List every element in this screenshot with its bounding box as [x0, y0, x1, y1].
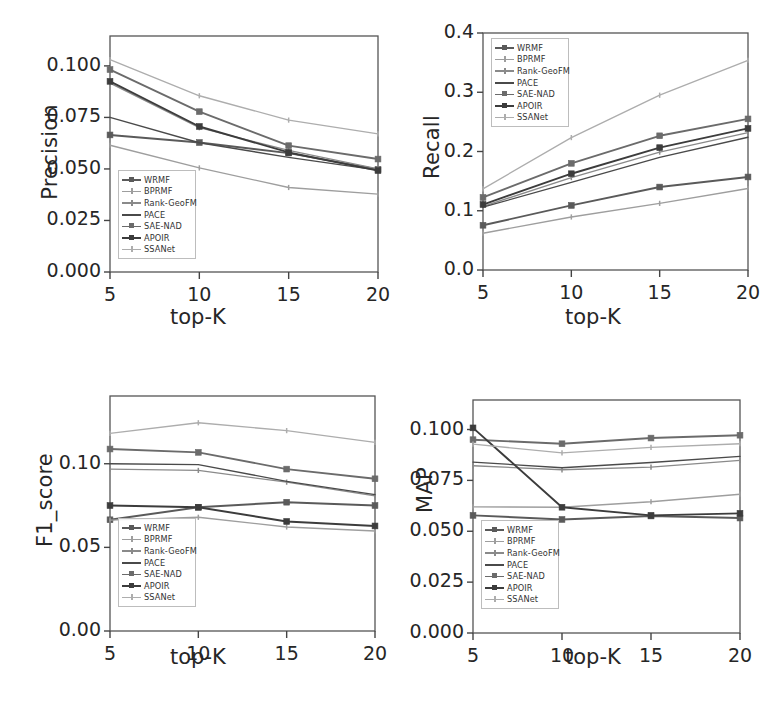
legend-label: APOIR	[504, 583, 533, 593]
legend-item: SSANet	[122, 592, 191, 604]
panel-precision: Precision top-K WRMFBPRMFRank-GeoFMPACES…	[0, 0, 400, 348]
legend-swatch-icon	[485, 536, 504, 546]
legend-f1-score: WRMFBPRMFRank-GeoFMPACESAE-NADAPOIRSSANe…	[118, 518, 196, 607]
x-tick-label: 5	[448, 644, 498, 666]
legend-precision: WRMFBPRMFRank-GeoFMPACESAE-NADAPOIRSSANe…	[118, 170, 196, 259]
legend-item: Rank-GeoFM	[485, 547, 554, 559]
legend-swatch-icon	[495, 101, 514, 111]
legend-item: APOIR	[122, 580, 191, 592]
legend-label: SAE-NAD	[504, 571, 545, 581]
legend-swatch-icon	[495, 112, 514, 122]
legend-label: Rank-GeoFM	[141, 546, 197, 556]
y-tick-label: 0.050	[410, 518, 464, 540]
legend-swatch-icon	[485, 525, 504, 535]
x-tick-label: 10	[174, 283, 224, 305]
legend-item: APOIR	[495, 100, 564, 112]
figure-grid: Precision top-K WRMFBPRMFRank-GeoFMPACES…	[0, 0, 773, 712]
legend-swatch-icon	[122, 198, 141, 208]
panel-f1-score: F1_score top-K WRMFBPRMFRank-GeoFMPACESA…	[0, 348, 400, 712]
legend-swatch-icon	[122, 221, 141, 231]
legend-item: WRMF	[122, 522, 191, 534]
legend-item: APOIR	[122, 232, 191, 244]
legend-swatch-icon	[495, 54, 514, 64]
legend-label: SSANet	[141, 592, 175, 602]
legend-item: SSANet	[485, 594, 554, 606]
y-tick-label: 0.1	[444, 198, 474, 220]
legend-swatch-icon	[495, 78, 514, 88]
legend-label: PACE	[141, 210, 165, 220]
legend-item: PACE	[122, 557, 191, 569]
legend-label: WRMF	[141, 175, 170, 185]
y-tick-label: 0.100	[410, 417, 464, 439]
y-tick-label: 0.075	[47, 104, 101, 126]
x-tick-label: 15	[626, 644, 676, 666]
legend-item: WRMF	[495, 42, 564, 54]
x-tick-label: 10	[173, 642, 223, 664]
legend-item: BPRMF	[495, 54, 564, 66]
legend-swatch-icon	[122, 558, 141, 568]
x-tick-label: 5	[85, 283, 135, 305]
legend-swatch-icon	[485, 583, 504, 593]
legend-label: APOIR	[514, 101, 543, 111]
legend-item: Rank-GeoFM	[122, 197, 191, 209]
legend-item: PACE	[495, 77, 564, 89]
legend-label: WRMF	[504, 525, 533, 535]
legend-recall: WRMFBPRMFRank-GeoFMPACESAE-NADAPOIRSSANe…	[491, 38, 569, 127]
legend-item: SAE-NAD	[485, 570, 554, 582]
y-tick-label: 0.100	[47, 53, 101, 75]
legend-swatch-icon	[122, 186, 141, 196]
legend-label: SAE-NAD	[141, 221, 182, 231]
legend-item: WRMF	[485, 524, 554, 536]
legend-swatch-icon	[495, 89, 514, 99]
x-tick-label: 20	[723, 281, 773, 303]
legend-item: WRMF	[122, 174, 191, 186]
legend-label: SSANet	[504, 594, 538, 604]
x-tick-label: 20	[353, 283, 403, 305]
legend-item: SAE-NAD	[122, 220, 191, 232]
legend-label: APOIR	[141, 233, 170, 243]
legend-label: BPRMF	[141, 186, 173, 196]
legend-label: APOIR	[141, 581, 170, 591]
legend-label: BPRMF	[504, 536, 536, 546]
y-tick-label: 0.10	[59, 451, 101, 473]
legend-swatch-icon	[485, 571, 504, 581]
legend-swatch-icon	[122, 569, 141, 579]
legend-swatch-icon	[122, 534, 141, 544]
legend-item: PACE	[485, 559, 554, 571]
legend-label: Rank-GeoFM	[504, 548, 560, 558]
x-tick-label: 5	[85, 642, 135, 664]
legend-label: WRMF	[514, 43, 543, 53]
legend-swatch-icon	[122, 592, 141, 602]
legend-label: PACE	[504, 560, 528, 570]
y-tick-label: 0.000	[47, 259, 101, 281]
legend-item: SAE-NAD	[495, 88, 564, 100]
y-tick-label: 0.00	[59, 618, 101, 640]
y-tick-label: 0.2	[444, 139, 474, 161]
x-tick-label: 20	[715, 644, 765, 666]
legend-map: WRMFBPRMFRank-GeoFMPACESAE-NADAPOIRSSANe…	[481, 520, 559, 609]
legend-item: BPRMF	[122, 534, 191, 546]
legend-swatch-icon	[122, 546, 141, 556]
legend-label: SAE-NAD	[141, 569, 182, 579]
x-tick-label: 15	[264, 283, 314, 305]
legend-label: WRMF	[141, 523, 170, 533]
y-tick-label: 0.050	[47, 156, 101, 178]
legend-label: SSANet	[141, 244, 175, 254]
y-tick-label: 0.000	[410, 620, 464, 642]
y-tick-label: 0.0	[444, 257, 474, 279]
legend-item: SSANet	[495, 112, 564, 124]
legend-label: Rank-GeoFM	[141, 198, 197, 208]
legend-swatch-icon	[485, 560, 504, 570]
x-tick-label: 15	[262, 642, 312, 664]
legend-label: PACE	[141, 558, 165, 568]
legend-swatch-icon	[122, 523, 141, 533]
x-tick-label: 10	[546, 281, 596, 303]
legend-swatch-icon	[485, 548, 504, 558]
legend-swatch-icon	[122, 244, 141, 254]
legend-item: APOIR	[485, 582, 554, 594]
legend-item: BPRMF	[485, 536, 554, 548]
legend-label: PACE	[514, 78, 538, 88]
y-tick-label: 0.075	[410, 467, 464, 489]
legend-item: BPRMF	[122, 186, 191, 198]
legend-item: SSANet	[122, 244, 191, 256]
